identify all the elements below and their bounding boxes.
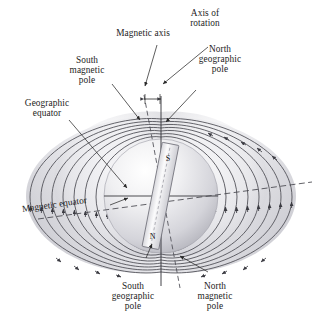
tilt-angle-marker xyxy=(144,94,161,104)
leader-magnetic-axis xyxy=(145,45,157,86)
label-geographic-equator: Geographic equator xyxy=(7,98,87,118)
diagram-canvas: S N xyxy=(0,0,323,326)
label-south-magnetic-pole: South magnetic pole xyxy=(56,55,118,86)
magnet-north-letter: N xyxy=(150,232,156,241)
label-south-geographic-pole: South geographic pole xyxy=(99,281,167,312)
magnetic-field-diagram: S N Magnetic axis Axis of rotation South… xyxy=(0,0,323,326)
label-north-magnetic-pole: North magnetic pole xyxy=(184,281,246,312)
label-magnetic-axis: Magnetic axis xyxy=(93,28,193,38)
magnet-south-letter: S xyxy=(166,154,170,163)
label-north-geographic-pole: North geographic pole xyxy=(182,44,258,75)
label-axis-of-rotation: Axis of rotation xyxy=(174,8,236,28)
